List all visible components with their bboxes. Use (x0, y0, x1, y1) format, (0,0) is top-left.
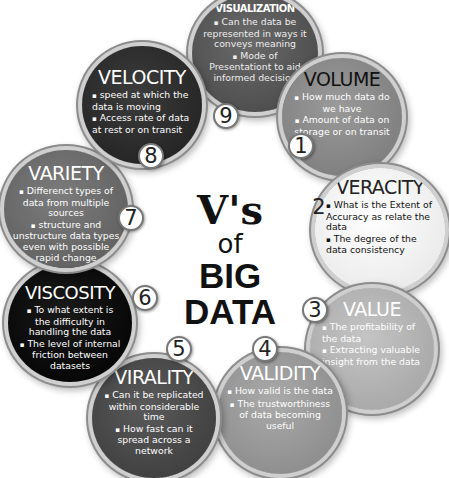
veracity-title: VERACITY (336, 178, 424, 197)
veracity-bullet-2: The degree of the data consistency (326, 234, 434, 256)
virality-bullet-2: How fast can it spread across a network (101, 424, 207, 457)
velocity-title: VELOCITY (98, 68, 186, 87)
number-badge-5: 5 (166, 336, 192, 362)
veracity-bullets: What is the Extent of Accuracy as relate… (320, 200, 440, 257)
validity-bullet-2: The trustworthiness of data becoming use… (227, 399, 333, 432)
circle-variety: VARIETY Differenct types of data from mu… (4, 150, 128, 268)
value-bullet-2: Extracting valuable insight from the dat… (322, 345, 422, 367)
veracity-bullet-1: What is the Extent of Accuracy as relate… (326, 200, 434, 233)
title-of: of (150, 230, 310, 258)
number-badge-7: 7 (118, 205, 144, 231)
variety-bullets: Differenct types of data from multiple s… (5, 186, 127, 264)
viscosity-bullets: To what extent is the difficulty in hand… (12, 305, 128, 373)
visualization-title: VISUALIZATION (215, 4, 294, 14)
viscosity-bullet-2: The level of internal friction between d… (18, 339, 122, 372)
validity-title: VALIDITY (240, 364, 320, 383)
volume-title: VOLUME (304, 70, 381, 89)
circle-validity: VALIDITY How valid is the data The trust… (218, 352, 342, 474)
validity-bullets: How valid is the data The trustworthines… (221, 386, 339, 432)
number-badge-8: 8 (138, 143, 164, 169)
volume-bullet-1: How much data do we have (290, 92, 394, 114)
value-bullets: The profitability of the data Extracting… (316, 322, 428, 368)
virality-title: VIRALITY (114, 368, 193, 387)
circle-viscosity: VISCOSITY To what extent is the difficul… (8, 264, 132, 382)
validity-bullet-1: How valid is the data (227, 386, 333, 398)
number-badge-4: 4 (252, 336, 278, 362)
velocity-bullet-1: speed at which the data is moving (92, 90, 192, 112)
velocity-bullet-2: Access rate of data at rest or on transi… (92, 113, 192, 135)
viscosity-bullet-1: To what extent is the difficulty in hand… (18, 305, 122, 338)
title-big-data: BIG DATA (150, 258, 310, 330)
visualization-bullet-2: Mode of Presentationt to aid informed de… (201, 51, 309, 84)
diagram-title: V's of BIG DATA (150, 190, 310, 330)
title-vs: V's (150, 190, 310, 230)
virality-bullet-1: Can it be replicated within considerable… (101, 390, 207, 423)
value-title: VALUE (343, 300, 401, 319)
virality-bullets: Can it be replicated within considerable… (95, 390, 213, 458)
visualization-bullets: Can the data be represented in ways it c… (195, 17, 315, 85)
volume-bullets: How much data do we have Amount of data … (284, 92, 400, 138)
variety-bullet-2: structure and unstructure data types eve… (11, 220, 121, 263)
value-bullet-1: The profitability of the data (322, 322, 422, 344)
viscosity-title: VISCOSITY (25, 284, 115, 302)
variety-bullet-1: Differenct types of data from multiple s… (11, 186, 121, 219)
visualization-bullet-1: Can the data be represented in ways it c… (201, 17, 309, 50)
number-badge-9: 9 (213, 103, 239, 129)
circle-virality: VIRALITY Can it be replicated within con… (92, 358, 216, 478)
variety-title: VARIETY (28, 164, 103, 183)
circle-veracity: VERACITY What is the Extent of Accuracy … (315, 168, 445, 292)
number-badge-1: 1 (288, 133, 314, 159)
velocity-bullets: speed at which the data is moving Access… (86, 90, 198, 136)
